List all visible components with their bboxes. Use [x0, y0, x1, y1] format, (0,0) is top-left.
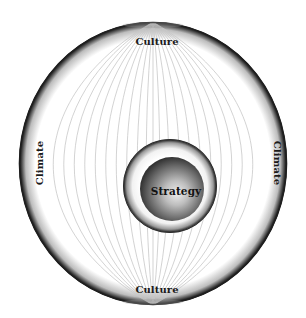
strategy-label: Strategy	[151, 186, 202, 197]
top-pole-shade	[123, 22, 183, 28]
climate-label-left: Climate	[35, 141, 45, 185]
culture-climate-strategy-diagram	[0, 0, 306, 318]
climate-label-right: Climate	[272, 141, 282, 185]
bottom-pole-shade	[123, 299, 183, 305]
culture-label-top: Culture	[135, 37, 178, 47]
culture-label-bottom: Culture	[135, 285, 178, 295]
